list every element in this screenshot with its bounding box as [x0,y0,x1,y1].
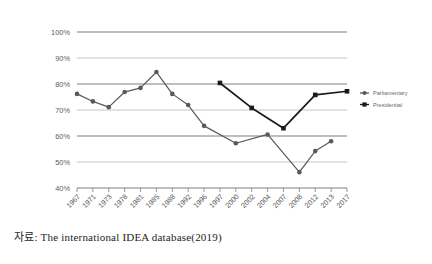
legend-marker-parliamentary [362,91,366,95]
data-point-parliamentary [154,70,159,75]
legend-marker-presidential [362,102,366,106]
x-axis-tick-label: 1985 [144,192,162,210]
x-axis-tick-label: 1981 [128,192,146,210]
y-axis-tick-label: 50% [55,158,70,167]
data-point-parliamentary [297,170,302,175]
data-point-parliamentary [106,105,111,110]
x-axis-tick-label: 1992 [176,192,194,210]
data-point-parliamentary [138,86,143,91]
chart-canvas: 100%90%80%70%60%50%40%196719711973197819… [0,0,432,264]
data-point-presidential [313,93,318,98]
legend-label-presidential: Presidential [373,102,402,108]
x-axis-tick-label: 2013 [318,192,336,210]
y-axis-tick-label: 40% [55,184,70,193]
y-axis-tick-label: 90% [55,54,70,63]
source-caption: 자료: The international IDEA database(2019… [14,228,222,244]
data-point-parliamentary [202,124,207,129]
legend-label-parliamentary: Parliamentary [373,90,408,96]
y-axis-tick-label: 100% [51,28,70,37]
x-axis-tick-label: 1967 [64,192,82,210]
x-axis-tick-label: 1988 [160,192,178,210]
data-point-parliamentary [234,141,239,146]
data-point-parliamentary [91,99,96,104]
y-axis-tick-label: 60% [55,132,70,141]
x-axis-tick-label: 1997 [207,192,225,210]
x-axis-tick-label: 1996 [191,192,209,210]
data-point-parliamentary [186,103,191,108]
series-line-parliamentary [77,72,331,172]
x-axis-tick-label: 2000 [223,192,241,210]
y-axis-tick-label: 80% [55,80,70,89]
data-point-parliamentary [329,139,334,144]
x-axis-tick-label: 2007 [271,192,289,210]
data-point-parliamentary [75,92,80,97]
data-point-presidential [218,81,223,86]
x-axis-tick-label: 1978 [112,192,130,210]
data-point-parliamentary [122,90,127,95]
x-axis-tick-label: 2012 [303,192,321,210]
x-axis-tick-label: 2017 [334,192,352,210]
data-point-presidential [345,89,350,94]
x-axis-tick-label: 1973 [96,192,114,210]
data-point-presidential [281,126,286,131]
data-point-presidential [249,106,254,111]
data-point-parliamentary [313,149,318,154]
data-point-parliamentary [265,132,270,137]
x-axis-tick-label: 2002 [239,192,257,210]
x-axis-tick-label: 1971 [80,192,98,210]
x-axis-tick-label: 2008 [287,192,305,210]
data-point-parliamentary [170,92,175,97]
x-axis-tick-label: 2004 [255,192,273,210]
vote-turnout-line-chart: 100%90%80%70%60%50%40%196719711973197819… [0,0,432,264]
series-line-presidential [220,83,347,128]
y-axis-tick-label: 70% [55,106,70,115]
